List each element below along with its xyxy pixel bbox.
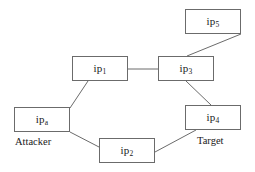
node-ip1-subscript: 1 <box>103 67 107 76</box>
edge-ip2-ip4 <box>155 130 196 152</box>
node-ip1-label: ip1 <box>94 63 107 74</box>
node-ipa: ipa <box>14 107 70 132</box>
node-ip3-label: ip3 <box>180 63 193 74</box>
edge-ip3-ip4 <box>186 81 211 105</box>
node-ip5-subscript: 5 <box>216 20 220 29</box>
edge-ipa-ip2 <box>70 132 99 147</box>
node-ipa-label: ipa <box>36 114 49 125</box>
node-ip2-subscript: 2 <box>130 149 134 158</box>
node-ip3: ip3 <box>158 56 214 81</box>
node-ip2: ip2 <box>99 138 155 163</box>
edge-ip5-ip3 <box>187 34 241 56</box>
caption-target: Target <box>197 135 223 146</box>
node-ip4-label: ip4 <box>207 112 220 123</box>
node-ip4: ip4 <box>185 105 241 130</box>
node-ip5-label: ip5 <box>207 16 220 27</box>
node-ip2-label: ip2 <box>121 145 134 156</box>
node-ip5: ip5 <box>185 9 241 34</box>
node-ip1: ip1 <box>72 56 128 81</box>
network-path-diagram: ip5 ip1 ip3 ipa ip4 ip2 Attacker Target <box>0 0 255 172</box>
node-ip3-subscript: 3 <box>189 67 193 76</box>
node-ipa-subscript: a <box>45 118 49 127</box>
node-ip4-subscript: 4 <box>216 116 220 125</box>
caption-attacker: Attacker <box>15 136 51 147</box>
edge-ipa-ip1 <box>70 81 88 108</box>
